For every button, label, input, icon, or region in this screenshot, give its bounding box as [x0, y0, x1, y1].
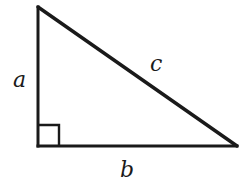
right-triangle-diagram: a c b: [0, 0, 247, 187]
label-side-a: a: [13, 67, 26, 92]
right-angle-marker: [38, 125, 59, 146]
label-side-b: b: [120, 157, 134, 182]
label-side-c: c: [150, 51, 162, 76]
side-c-hypotenuse-line: [38, 7, 237, 146]
